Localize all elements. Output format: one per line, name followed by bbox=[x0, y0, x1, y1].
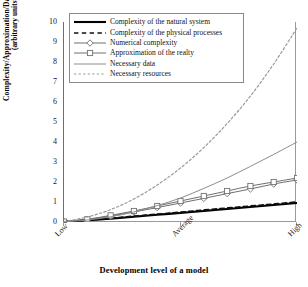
y-tick-label: 10 bbox=[31, 18, 57, 26]
legend-label: Numerical complexity bbox=[110, 39, 177, 47]
legend-item: Necessary data bbox=[73, 59, 239, 69]
line-solid-gray-icon bbox=[73, 59, 107, 69]
y-tick-label: 6 bbox=[31, 98, 57, 106]
legend-label: Necessary data bbox=[110, 60, 155, 68]
y-tick-label: 5 bbox=[31, 118, 57, 126]
data-point-marker bbox=[225, 188, 230, 193]
line-solid-thick-black-icon bbox=[73, 17, 107, 27]
data-point-marker bbox=[294, 175, 297, 180]
y-tick-label: 9 bbox=[31, 38, 57, 46]
legend-label: Complexity of the natural system bbox=[110, 18, 210, 26]
legend-label: Approximation of the realty bbox=[110, 49, 194, 57]
y-tick-label: 8 bbox=[31, 58, 57, 66]
line-dashed-black-icon bbox=[73, 28, 107, 38]
y-tick-label: 2 bbox=[31, 178, 57, 186]
series-line bbox=[64, 142, 297, 222]
y-tick-label: 3 bbox=[31, 158, 57, 166]
chart-legend: Complexity of the natural systemComplexi… bbox=[69, 13, 244, 83]
y-tick-label: 4 bbox=[31, 138, 57, 146]
series-5 bbox=[64, 142, 297, 222]
legend-item: Necessary resources bbox=[73, 69, 239, 79]
x-axis-title: Development level of a model bbox=[0, 266, 308, 275]
legend-item: Numerical complexity bbox=[73, 38, 239, 48]
data-point-marker bbox=[271, 179, 276, 184]
y-axis-title: Complexity/Approximation/Data & Resource… bbox=[1, 0, 21, 131]
line-square-marker-gray-icon bbox=[73, 48, 107, 58]
line-diamond-marker-gray-icon bbox=[73, 38, 107, 48]
legend-label: Necessary resources bbox=[110, 70, 171, 78]
y-axis-title-line2: (arbitrary units) bbox=[11, 0, 20, 50]
chart-figure: Complexity/Approximation/Data & Resource… bbox=[0, 0, 308, 287]
x-tick-label: High bbox=[286, 221, 304, 239]
legend-item: Complexity of the natural system bbox=[73, 17, 239, 27]
y-tick-label: 1 bbox=[31, 198, 57, 206]
line-dotted-gray-icon bbox=[73, 69, 107, 79]
series-4 bbox=[64, 175, 297, 222]
data-point-marker bbox=[201, 193, 206, 198]
y-tick-label: 7 bbox=[31, 78, 57, 86]
y-tick-label: 0 bbox=[31, 218, 57, 226]
legend-label: Complexity of the physical processes bbox=[110, 29, 222, 37]
y-axis-title-line1: Complexity/Approximation/Data & Resource… bbox=[2, 0, 11, 101]
legend-item: Approximation of the realty bbox=[73, 48, 239, 58]
legend-item: Complexity of the physical processes bbox=[73, 27, 239, 37]
data-point-marker bbox=[248, 183, 253, 188]
